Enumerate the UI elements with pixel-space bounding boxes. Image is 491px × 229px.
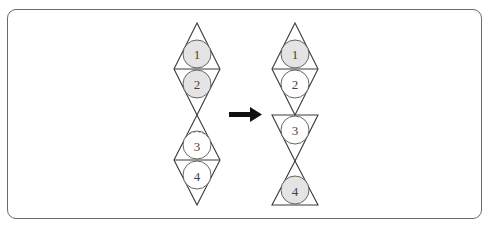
left-circle-4-label: 4 — [194, 169, 201, 184]
right-circle-3-label: 3 — [292, 123, 299, 138]
right-circle-1-label: 1 — [292, 47, 299, 62]
right-circle-4-label: 4 — [292, 184, 299, 199]
left-circle-1-label: 1 — [194, 47, 201, 62]
left-circle-2-label: 2 — [194, 77, 201, 92]
right-figure: 1 2 3 4 — [272, 23, 318, 205]
diagram-canvas: 1 2 3 4 1 2 3 4 — [0, 0, 491, 229]
transform-arrow-icon — [229, 107, 262, 122]
left-figure: 1 2 3 4 — [174, 23, 220, 205]
left-circle-3-label: 3 — [194, 139, 201, 154]
right-circle-2-label: 2 — [292, 77, 299, 92]
